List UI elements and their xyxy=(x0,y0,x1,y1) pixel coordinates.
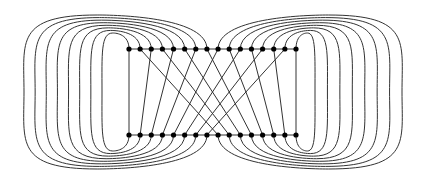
top-node xyxy=(126,46,131,51)
crossing-edge xyxy=(274,49,285,135)
crossing-edge xyxy=(140,49,151,135)
top-node xyxy=(182,46,187,51)
bottom-node xyxy=(271,132,276,137)
bottom-node xyxy=(260,132,265,137)
bottom-node xyxy=(215,132,220,137)
crossing-edge xyxy=(251,49,273,135)
right-loop xyxy=(296,33,315,151)
top-node xyxy=(282,46,287,51)
left-loop xyxy=(68,25,162,158)
top-node xyxy=(271,46,276,51)
top-node xyxy=(138,46,143,51)
crossing-edge xyxy=(162,49,229,135)
top-node xyxy=(249,46,254,51)
left-loop xyxy=(57,23,173,162)
right-loop xyxy=(251,23,364,162)
right-loop xyxy=(229,18,390,167)
top-node xyxy=(238,46,243,51)
bottom-node xyxy=(126,132,131,137)
bottom-node xyxy=(282,132,287,137)
top-node xyxy=(215,46,220,51)
crossing-edge xyxy=(207,49,252,135)
bottom-node xyxy=(293,132,298,137)
top-node xyxy=(193,46,198,51)
top-node xyxy=(260,46,265,51)
top-node xyxy=(293,46,298,51)
bottom-node xyxy=(249,132,254,137)
crossing-edge xyxy=(229,49,262,135)
crossing-edge xyxy=(151,49,173,135)
bottom-node xyxy=(193,132,198,137)
bottom-node xyxy=(171,132,176,137)
bottom-node xyxy=(238,132,243,137)
top-node xyxy=(149,46,154,51)
left-loop xyxy=(102,33,129,151)
top-node xyxy=(227,46,232,51)
top-node xyxy=(171,46,176,51)
top-node xyxy=(160,46,165,51)
right-loop xyxy=(263,25,353,158)
top-node xyxy=(204,46,209,51)
bottom-node xyxy=(182,132,187,137)
left-loop xyxy=(35,18,196,167)
bottom-node xyxy=(204,132,209,137)
right-loop xyxy=(240,20,377,164)
crossing-edge xyxy=(140,49,218,135)
graph-diagram xyxy=(0,0,421,181)
crossing-edges xyxy=(129,49,296,135)
bottom-node xyxy=(149,132,154,137)
bottom-node xyxy=(160,132,165,137)
bottom-node xyxy=(227,132,232,137)
left-loop xyxy=(46,20,185,164)
bottom-node xyxy=(138,132,143,137)
